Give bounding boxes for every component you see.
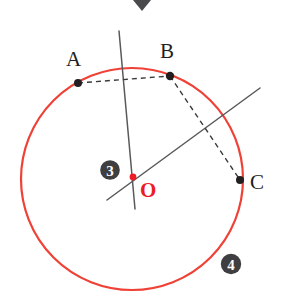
point-a-label: A xyxy=(66,47,82,71)
badge-4: 4 xyxy=(221,254,241,274)
point-c-dot xyxy=(236,176,244,184)
point-b-dot xyxy=(166,72,174,80)
point-b-label: B xyxy=(160,39,174,63)
point-c-label: C xyxy=(250,170,264,194)
circle-geometry-diagram: A B C O 3 4 xyxy=(0,0,281,308)
badge-3-label: 3 xyxy=(106,163,114,179)
point-a-dot xyxy=(74,79,82,87)
diagram-canvas: A B C O 3 4 xyxy=(0,0,281,308)
center-point-o-dot xyxy=(130,174,137,181)
badge-4-label: 4 xyxy=(227,257,235,273)
chevron-down-icon xyxy=(133,0,151,11)
center-point-o-label: O xyxy=(140,178,156,202)
badge-3: 3 xyxy=(100,160,120,180)
perpendicular-bisector-line xyxy=(119,31,135,209)
